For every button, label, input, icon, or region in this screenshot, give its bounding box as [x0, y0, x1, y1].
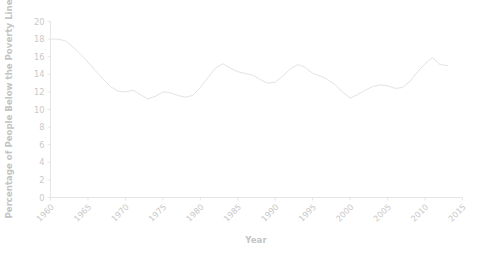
x-tick-label: 1970 — [109, 202, 131, 224]
line-chart-plot: 02468101214161820 1960196519701975198019… — [0, 0, 481, 253]
y-axis-title: Percentage of People Below the Poverty L… — [4, 0, 14, 219]
y-tick-label: 14 — [34, 69, 44, 79]
y-tick-label: 8 — [39, 122, 44, 132]
y-tick-label: 4 — [39, 157, 44, 167]
x-tick-label: 2010 — [409, 202, 431, 224]
x-tick-label: 2000 — [334, 202, 356, 224]
x-tick-label: 1980 — [184, 202, 206, 224]
x-tick-label: 1990 — [259, 202, 281, 224]
y-tick-label: 6 — [39, 140, 44, 150]
x-tick-label: 1995 — [296, 202, 318, 224]
y-tick-label: 10 — [34, 105, 44, 115]
y-tick-label: 18 — [34, 34, 44, 44]
y-tick-label: 2 — [39, 175, 44, 185]
x-tick-label: 1975 — [146, 202, 168, 224]
x-tick-label: 2005 — [371, 202, 393, 224]
y-tick-label: 0 — [39, 193, 44, 203]
x-tick-label: 1965 — [72, 202, 94, 224]
x-tick-group: 1960196519701975198019851990199520002005… — [34, 198, 468, 224]
x-tick-label: 1960 — [34, 202, 56, 224]
bottom-caption-strip — [0, 242, 481, 253]
x-tick-label: 1985 — [221, 202, 243, 224]
poverty-rate-line — [51, 39, 448, 99]
chart-figure: 02468101214161820 1960196519701975198019… — [0, 0, 481, 253]
y-tick-label: 12 — [34, 87, 44, 97]
y-tick-group: 02468101214161820 — [34, 17, 50, 203]
y-tick-label: 20 — [34, 17, 44, 27]
x-tick-label: 2015 — [446, 202, 468, 224]
y-tick-label: 16 — [34, 52, 44, 62]
